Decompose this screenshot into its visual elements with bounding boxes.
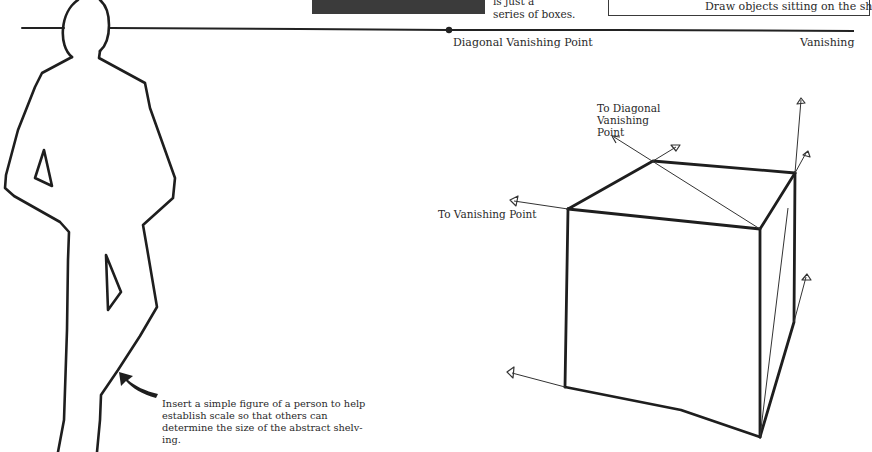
to-vanishing-point-label: To Vanishing Point bbox=[438, 208, 536, 220]
horizon-line bbox=[22, 28, 854, 31]
construction-lines bbox=[512, 100, 806, 437]
figure-caption: Insert a simple figure of a person to he… bbox=[162, 398, 377, 446]
to-diagonal-vanishing-point-label: To Diagonal Vanishing Point bbox=[597, 102, 660, 138]
diagonal-vanishing-point-dot bbox=[446, 27, 452, 33]
arrowhead-icons bbox=[507, 98, 811, 378]
cube bbox=[565, 161, 795, 437]
diagonal-vanishing-point-label: Diagonal Vanishing Point bbox=[453, 36, 593, 49]
vanishing-point-label: Vanishing bbox=[800, 36, 854, 49]
person-figure bbox=[5, 0, 175, 452]
callout-arrow-icon bbox=[119, 372, 158, 398]
